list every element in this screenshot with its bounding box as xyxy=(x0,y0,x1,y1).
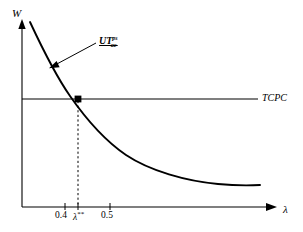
curve-label-subscript: ac xyxy=(111,42,117,48)
y-axis-label: W xyxy=(12,8,21,19)
x-tick-label-0.5: 0.5 xyxy=(101,211,113,221)
lambda-tick-superscript: ** xyxy=(77,210,84,218)
figure-container: W λ UTpsac TCPC 0.4 λ** 0.5 xyxy=(0,0,303,232)
curve-series-label: UTpsac xyxy=(99,35,116,48)
chart-canvas xyxy=(0,0,303,232)
x-tick-label-lambda-star-star: λ** xyxy=(73,211,84,223)
x-tick-label-0.4: 0.4 xyxy=(55,211,67,221)
curve-callout-arrow xyxy=(49,43,96,68)
tcpc-line-label: TCPC xyxy=(262,93,287,103)
x-axis-label: λ xyxy=(283,204,288,215)
curve-label-superscript: ps xyxy=(112,35,117,41)
ut-curve xyxy=(30,22,260,185)
intersection-point-marker xyxy=(75,96,82,103)
y-axis xyxy=(18,19,25,207)
